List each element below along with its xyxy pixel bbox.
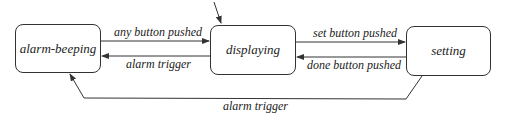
- label-any-button-pushed: any button pushed: [114, 25, 202, 40]
- arrow-setting-to-beeping: [70, 74, 422, 99]
- state-label: displaying: [226, 42, 280, 58]
- state-label: setting: [431, 43, 466, 59]
- state-displaying: displaying: [210, 25, 296, 75]
- label-set-button-pushed: set button pushed: [313, 26, 397, 41]
- state-alarm-beeping: alarm-beeping: [15, 24, 101, 73]
- label-alarm-trigger-top: alarm trigger: [126, 57, 191, 72]
- initial-arrow: [214, 2, 221, 23]
- state-label: alarm-beeping: [20, 41, 97, 57]
- state-setting: setting: [406, 26, 491, 76]
- label-alarm-trigger-bottom: alarm trigger: [223, 99, 288, 114]
- label-done-button-pushed: done button pushed: [307, 58, 401, 73]
